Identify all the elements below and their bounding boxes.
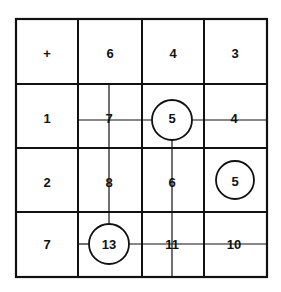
header-value: 1 [43,111,50,126]
cell-value: 11 [165,237,179,252]
cell-value: 6 [168,175,175,190]
cell-value: 13 [102,237,116,252]
cell-value: 7 [105,111,112,126]
cell-value: 5 [168,111,175,126]
header-value: 2 [43,175,50,190]
header-value: 4 [169,46,177,61]
cell-value: 10 [227,237,241,252]
header-value: 3 [231,46,238,61]
cell-value: 8 [105,175,112,190]
cell-value: 5 [231,174,238,189]
header-value: 7 [43,237,50,252]
cell-value: 4 [230,111,238,126]
plus-sign: + [43,46,51,61]
header-value: 6 [106,46,113,61]
addition-table-diagram: + 6 4 3 1 7 5 4 2 8 6 5 7 13 11 10 [0,0,281,292]
